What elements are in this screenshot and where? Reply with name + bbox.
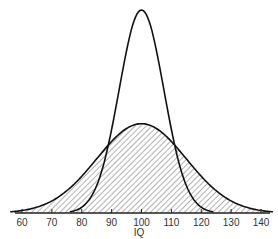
x-tick-label: 80 [76, 217, 88, 228]
wide-curve-shaded-area [10, 124, 273, 213]
x-tick-label: 90 [106, 217, 118, 228]
x-tick-label: 140 [253, 217, 270, 228]
x-tick-label: 110 [163, 217, 179, 228]
x-tick-label: 70 [46, 217, 58, 228]
x-tick-label: 120 [193, 217, 210, 228]
x-tick-label: 60 [16, 217, 28, 228]
x-axis-title: IQ [134, 227, 145, 238]
x-tick-label: 130 [223, 217, 240, 228]
normal-distribution-chart: 60708090100110120130140 IQ [0, 0, 278, 239]
